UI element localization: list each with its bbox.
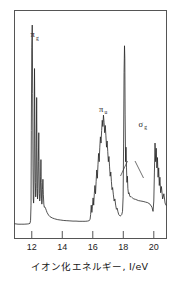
- band-label-base: π: [30, 29, 35, 39]
- band-label-subscript: u: [105, 109, 108, 115]
- x-tick-label-14: 14: [57, 242, 67, 252]
- x-tick-label-12: 12: [27, 242, 37, 252]
- band-label-base: π: [99, 104, 104, 114]
- x-axis-title: イオン化エネルギー, I/eV: [0, 259, 179, 273]
- band-label-subscript: g: [36, 35, 39, 41]
- x-tick-label-20: 20: [149, 242, 159, 252]
- photoelectron-spectrum-figure: 1214161820 πgπuσg イオン化エネルギー, I/eV: [0, 0, 179, 281]
- band-label-subscript: g: [144, 124, 147, 130]
- x-tick-label-16: 16: [88, 242, 98, 252]
- band-label-base: σ: [139, 119, 144, 129]
- spectrum-plot: 1214161820 πgπuσg: [0, 0, 179, 281]
- x-tick-label-18: 18: [118, 242, 128, 252]
